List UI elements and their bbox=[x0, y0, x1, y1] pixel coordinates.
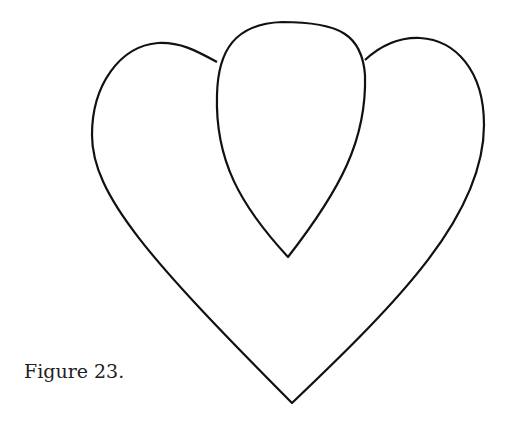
inner-petal-outline bbox=[217, 22, 365, 257]
figure-caption: Figure 23. bbox=[24, 360, 124, 382]
